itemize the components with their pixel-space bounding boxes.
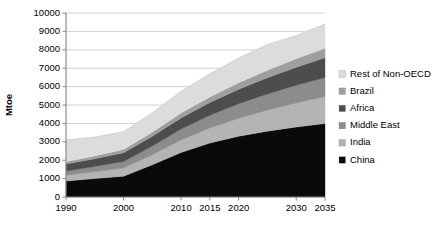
legend-label: Brazil [350, 85, 374, 96]
legend-swatch [339, 105, 346, 112]
x-tick-label: 2010 [171, 202, 192, 213]
x-tick-label: 2000 [113, 202, 134, 213]
legend-label: Africa [350, 102, 375, 113]
legend-swatch [339, 122, 346, 129]
legend-swatch [339, 157, 346, 164]
x-tick-label: 2015 [199, 202, 220, 213]
legend-label: Rest of Non-OECD [350, 68, 431, 79]
chart-container: 0100020003000400050006000700080009000100… [0, 0, 447, 238]
stacked-area-chart: 0100020003000400050006000700080009000100… [0, 0, 447, 238]
legend-swatch [339, 140, 346, 147]
y-tick-label: 1000 [39, 172, 60, 183]
y-tick-label: 2000 [39, 154, 60, 165]
legend-label: India [350, 136, 371, 147]
y-tick-label: 7000 [39, 62, 60, 73]
x-tick-label: 1990 [55, 202, 76, 213]
legend-label: Middle East [350, 119, 400, 130]
y-tick-label: 6000 [39, 80, 60, 91]
x-tick-label: 2035 [314, 202, 335, 213]
legend-label: China [350, 154, 376, 165]
y-tick-label: 8000 [39, 43, 60, 54]
x-axis-ticks: 1990200020102015202020302035 [55, 197, 335, 213]
y-axis-title: Mtoe [3, 94, 14, 116]
legend-swatch [339, 71, 346, 78]
y-tick-label: 9000 [39, 25, 60, 36]
y-axis-ticks: 0100020003000400050006000700080009000100… [34, 7, 66, 202]
y-tick-label: 4000 [39, 117, 60, 128]
y-tick-label: 5000 [39, 99, 60, 110]
legend-swatch [339, 88, 346, 95]
x-tick-label: 2020 [228, 202, 249, 213]
x-tick-label: 2030 [286, 202, 307, 213]
y-tick-label: 0 [55, 191, 60, 202]
chart-legend: Rest of Non-OECDBrazilAfricaMiddle EastI… [339, 68, 431, 165]
y-tick-label: 3000 [39, 135, 60, 146]
y-tick-label: 10000 [34, 7, 60, 18]
